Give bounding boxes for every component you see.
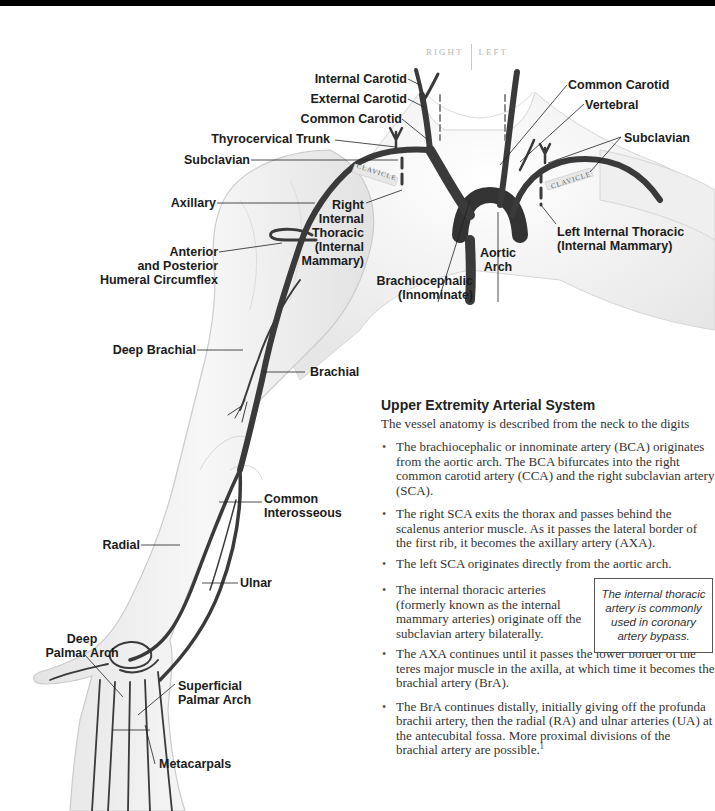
label-metacarpals: Metacarpals	[159, 757, 231, 771]
orientation-divider	[471, 44, 472, 70]
label-axillary: Axillary	[140, 196, 216, 210]
label-aortic-arch: Aortic Arch	[476, 246, 520, 274]
bullet-bca: The brachiocephalic or innominate artery…	[381, 440, 715, 498]
label-deep-palmar-arch: Deep Palmar Arch	[44, 632, 120, 660]
label-brachiocephalic: Brachiocephalic (Innominate)	[370, 274, 473, 302]
label-superficial-palmar-arch: Superficial Palmar Arch	[178, 679, 251, 707]
panel-title: Upper Extremity Arterial System	[381, 397, 715, 414]
bullet-left-sca: The left SCA originates directly from th…	[381, 557, 715, 572]
orientation-label: RIGHTLEFT	[426, 47, 508, 70]
label-deep-brachial: Deep Brachial	[100, 343, 196, 357]
label-common-carotid-left: Common Carotid	[568, 78, 669, 92]
label-ulnar: Ulnar	[240, 576, 272, 590]
label-vertebral: Vertebral	[585, 98, 639, 112]
label-subclavian-left: Subclavian	[624, 131, 690, 145]
label-external-carotid: External Carotid	[262, 92, 407, 106]
label-left-internal-thoracic: Left Internal Thoracic (Internal Mammary…	[557, 225, 684, 253]
orientation-left: LEFT	[479, 47, 509, 57]
bullet-axa: The AXA continues until it passes the lo…	[381, 647, 715, 691]
panel-intro: The vessel anatomy is described from the…	[381, 416, 715, 431]
bullet-internal-thoracic: The internal thoracic arteries (formerly…	[381, 583, 596, 641]
bullet-bra: The BrA continues distally, initially gi…	[381, 700, 715, 758]
footnote-marker: 1	[540, 742, 544, 751]
label-radial: Radial	[90, 538, 140, 552]
bullet-right-sca: The right SCA exits the thorax and passe…	[381, 507, 715, 551]
orientation-right: RIGHT	[426, 47, 464, 57]
label-brachial: Brachial	[310, 365, 359, 379]
label-subclavian-right: Subclavian	[150, 153, 250, 167]
label-common-carotid-right: Common Carotid	[252, 112, 402, 126]
label-common-interosseous: Common Interosseous	[264, 492, 342, 520]
label-humeral-circumflex: Anterior and Posterior Humeral Circumfle…	[80, 245, 218, 287]
callout-box: The internal thoracic artery is commonly…	[594, 578, 713, 653]
label-thyrocervical-trunk: Thyrocervical Trunk	[180, 132, 330, 146]
label-right-internal-thoracic: Right Internal Thoracic (Internal Mammar…	[300, 198, 364, 268]
label-internal-carotid: Internal Carotid	[262, 72, 407, 86]
